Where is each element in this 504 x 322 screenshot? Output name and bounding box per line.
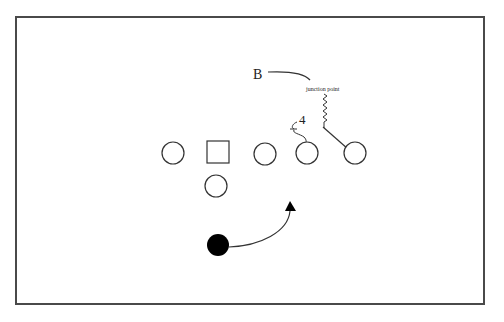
end-block-line — [323, 127, 348, 149]
lineman-4-circle — [296, 142, 318, 164]
zigzag-route-line — [323, 94, 327, 128]
end-circle — [344, 142, 366, 164]
arrow-head-icon — [285, 201, 296, 211]
center-square — [207, 141, 229, 163]
back-circle — [205, 175, 227, 197]
lineman-3-circle — [254, 143, 276, 165]
lineman-1-circle — [162, 142, 184, 164]
b-label: B — [253, 67, 262, 82]
junction-point-label: junction point — [305, 86, 340, 92]
ball-carrier-route — [229, 211, 290, 247]
number-4-label: 4 — [299, 112, 306, 127]
ball-carrier-filled-circle — [207, 234, 229, 256]
b-connector-line — [268, 72, 310, 80]
play-diagram: B junction point 4 — [0, 0, 504, 322]
